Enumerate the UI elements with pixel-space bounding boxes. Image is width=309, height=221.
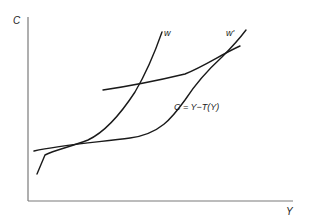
curve-w [37, 32, 162, 174]
economics-diagram [0, 0, 309, 221]
curve-w-prime-label: w' [226, 29, 234, 38]
curve-w-prime [34, 30, 246, 151]
budget-constraint-label: C = Y−T(Y) [174, 103, 219, 112]
x-axis-label: Y [286, 207, 293, 217]
curve-budget-constraint [103, 46, 240, 90]
curve-w-label: w [164, 29, 171, 38]
y-axis-label: C [13, 16, 20, 26]
